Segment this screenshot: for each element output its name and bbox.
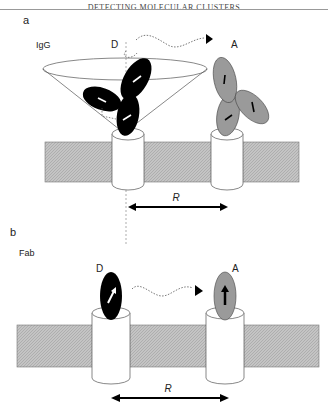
donor-label-a: D (111, 39, 118, 50)
fab-label: Fab (19, 248, 35, 258)
acceptor-label-a: A (231, 39, 238, 50)
panel-b-label: b (10, 226, 16, 238)
acceptor-fab (214, 272, 236, 320)
distance-label-b: R (164, 383, 171, 394)
panel-a: a IgG D A (23, 14, 299, 245)
distance-label-a: R (172, 192, 179, 203)
panel-b: b Fab D A (10, 226, 319, 402)
figure: a IgG D A (0, 0, 328, 410)
donor-igg (79, 53, 157, 138)
membrane-a (45, 142, 299, 182)
donor-fab (100, 272, 122, 320)
energy-transfer-arrow-a (136, 35, 205, 47)
acceptor-label-b: A (232, 263, 239, 274)
donor-label-b: D (96, 263, 103, 274)
acceptor-igg (209, 55, 274, 137)
receptor-donor-a (112, 128, 144, 190)
receptor-acceptor-a (211, 128, 243, 190)
arrowhead-icon (195, 285, 203, 296)
igg-label: IgG (36, 40, 51, 50)
panel-a-label: a (23, 14, 30, 26)
energy-transfer-arrow-b (132, 286, 193, 296)
arrowhead-icon (206, 34, 213, 44)
membrane-b (17, 325, 319, 367)
